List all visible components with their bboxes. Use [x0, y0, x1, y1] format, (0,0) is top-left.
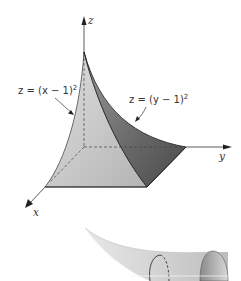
equation-y-exponent: 2	[184, 93, 188, 101]
x-axis: x	[25, 187, 45, 218]
horn-solid	[85, 228, 228, 281]
x-axis-label: x	[33, 206, 39, 218]
equation-x-exponent: 2	[73, 84, 77, 92]
y-axis-arrow-icon	[223, 145, 232, 150]
z-axis-arrow-icon	[82, 16, 87, 25]
label-surface-x: z = (x − 1)2	[18, 84, 77, 115]
z-axis-label: z	[87, 14, 94, 26]
y-axis: y	[186, 145, 232, 163]
x-axis-arrow-icon	[25, 199, 33, 208]
svg-text:z = (y − 1)2: z = (y − 1)2	[129, 93, 188, 105]
label-surface-y: z = (y − 1)2	[129, 93, 188, 122]
y-axis-label: y	[218, 150, 226, 162]
figure-canvas: z y x z = (x − 1)2 z = (y − 1)2	[0, 0, 241, 281]
label-x-pointer-icon	[55, 98, 72, 113]
svg-text:z = (x − 1)2: z = (x − 1)2	[18, 84, 77, 96]
surface-x-face	[45, 52, 147, 187]
equation-x-text: z = (x − 1)	[18, 85, 73, 96]
equation-y-text: z = (y − 1)	[129, 94, 184, 105]
